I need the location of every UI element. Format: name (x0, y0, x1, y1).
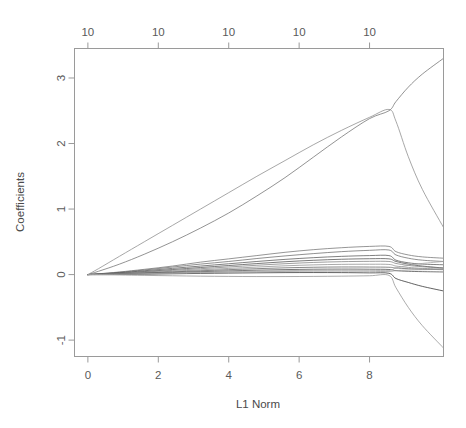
y-tick-label-3: 2 (56, 140, 68, 146)
y-tick-label-4: 3 (56, 75, 68, 81)
y-tick-label-1: 0 (56, 271, 68, 277)
y-tick-label-0: -1 (56, 335, 68, 345)
top-tick-label-0: 10 (81, 26, 94, 38)
y-axis-title: Coefficients (14, 172, 26, 232)
chart-root: 1010101010 02468 -10123 L1 Norm Coeffici… (0, 0, 466, 428)
x-tick-label-2: 4 (226, 369, 233, 381)
x-tick-label-4: 8 (366, 369, 372, 381)
plot-frame (75, 49, 444, 357)
left-axis: -10123 (56, 75, 75, 345)
top-tick-label-4: 10 (363, 26, 376, 38)
coefficient-path-coef-2 (88, 58, 444, 274)
top-tick-label-1: 10 (152, 26, 165, 38)
coefficient-path-plot: 1010101010 02468 -10123 L1 Norm Coeffici… (0, 0, 466, 428)
top-tick-label-2: 10 (222, 26, 235, 38)
coefficient-path-coef-12 (88, 275, 444, 348)
bottom-axis: 02468 (85, 357, 373, 381)
x-tick-label-0: 0 (85, 369, 91, 381)
y-tick-label-2: 1 (56, 206, 68, 212)
x-axis-title: L1 Norm (236, 398, 280, 410)
top-axis: 1010101010 (81, 26, 375, 49)
coefficient-path-coef-1 (88, 109, 444, 274)
coefficient-paths (88, 58, 444, 348)
top-tick-label-3: 10 (293, 26, 306, 38)
x-tick-label-3: 6 (296, 369, 302, 381)
x-tick-label-1: 2 (155, 369, 161, 381)
